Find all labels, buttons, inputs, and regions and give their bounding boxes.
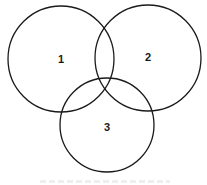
venn-diagram: 1 2 3 [0, 0, 207, 185]
circle-1-label: 1 [58, 53, 64, 65]
venn-svg: 1 2 3 [0, 0, 207, 185]
circle-3-label: 3 [104, 121, 110, 133]
cropped-caption-remnant [40, 180, 170, 183]
circle-2-label: 2 [145, 51, 151, 63]
